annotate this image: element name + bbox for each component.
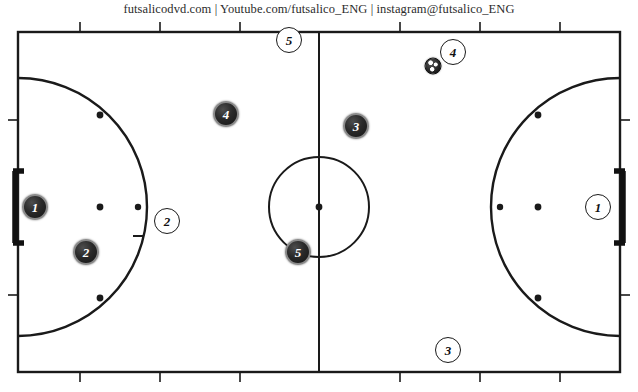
penalty-spot (97, 204, 104, 211)
penalty-spot (97, 295, 104, 302)
penalty-spot (97, 112, 104, 119)
court-markings (0, 20, 638, 392)
second-penalty-mark (135, 204, 141, 210)
player-light-4[interactable]: 4 (440, 39, 466, 65)
player-dark-4[interactable]: 4 (213, 101, 239, 127)
center-spot (316, 204, 323, 211)
player-light-1[interactable]: 1 (585, 194, 611, 220)
credit-line: futsalicodvd.com | Youtube.com/futsalico… (0, 2, 638, 17)
player-dark-3[interactable]: 3 (343, 113, 369, 139)
futsal-court-diagram: 1 2 4 3 5 1 2 5 4 3 (0, 20, 638, 392)
player-dark-5[interactable]: 5 (285, 239, 311, 265)
penalty-spot (535, 112, 542, 119)
player-dark-1[interactable]: 1 (22, 194, 48, 220)
penalty-spot (535, 295, 542, 302)
player-light-2[interactable]: 2 (154, 208, 180, 234)
player-light-3[interactable]: 3 (435, 337, 461, 363)
player-light-5[interactable]: 5 (276, 27, 302, 53)
second-penalty-mark (497, 204, 503, 210)
player-dark-2[interactable]: 2 (73, 239, 99, 265)
ball-icon[interactable] (425, 58, 442, 75)
penalty-spot (535, 204, 542, 211)
